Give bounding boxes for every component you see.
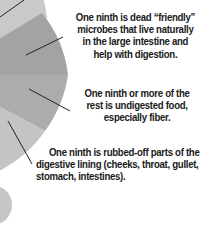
annotation-line: stomach, intestines). bbox=[36, 170, 213, 182]
annotation-line: help with digestion. bbox=[64, 48, 207, 60]
annotation-line: digestive lining (cheeks, throat, gullet… bbox=[36, 158, 213, 170]
annotation-friendly-microbes: One ninth is dead “friendly” microbes th… bbox=[64, 11, 207, 60]
bottom-circle bbox=[0, 185, 12, 225]
annotation-digestive-lining: One ninth is rubbed-off parts of the dig… bbox=[36, 146, 213, 183]
digestion-pie-diagram: One ninth is dead “friendly” microbes th… bbox=[0, 0, 213, 226]
annotation-line: One ninth is rubbed-off parts of the bbox=[36, 146, 213, 158]
annotation-line: One ninth is dead “friendly” bbox=[64, 11, 207, 23]
annotation-line: microbes that live naturally bbox=[64, 23, 207, 35]
annotation-undigested-food: One ninth or more of the rest is undiges… bbox=[70, 87, 204, 124]
annotation-line: One ninth or more of the bbox=[70, 87, 204, 99]
annotation-line: rest is undigested food, bbox=[70, 99, 204, 111]
annotation-line: in the large intestine and bbox=[64, 35, 207, 47]
annotation-line: especially fiber. bbox=[70, 111, 204, 123]
